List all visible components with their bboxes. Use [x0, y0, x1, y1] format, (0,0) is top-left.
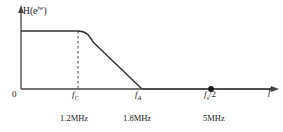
- tick-symbol-fa: fA: [135, 90, 142, 101]
- y-axis-label-close: ): [43, 6, 46, 16]
- response-curve: [21, 31, 142, 89]
- y-axis: [18, 5, 24, 89]
- tick-value-fa: 1.8MHz: [123, 114, 151, 123]
- origin-label: 0: [12, 90, 17, 99]
- x-axis-label: f: [268, 88, 271, 98]
- tick-value-fs-half: 5MHz: [203, 114, 225, 123]
- tick-symbol-fc-sub: C: [75, 94, 79, 101]
- tick-symbol-fc: fC: [72, 90, 79, 101]
- tick-symbol-fs-half-suffix: /2: [209, 89, 216, 99]
- tick-symbol-fs-half: fs/2: [204, 90, 216, 101]
- filter-response-figure: H(ejw) 0 f fC fA fs/2 1.2MHz 1.8MHz 5MHz: [0, 0, 283, 132]
- tick-value-fc: 1.2MHz: [60, 114, 88, 123]
- x-axis-arrowhead: [271, 86, 279, 92]
- tick-symbol-fa-sub: A: [138, 94, 142, 101]
- y-axis-label: H(ejw): [23, 5, 47, 17]
- y-axis-label-fn: H: [23, 6, 30, 16]
